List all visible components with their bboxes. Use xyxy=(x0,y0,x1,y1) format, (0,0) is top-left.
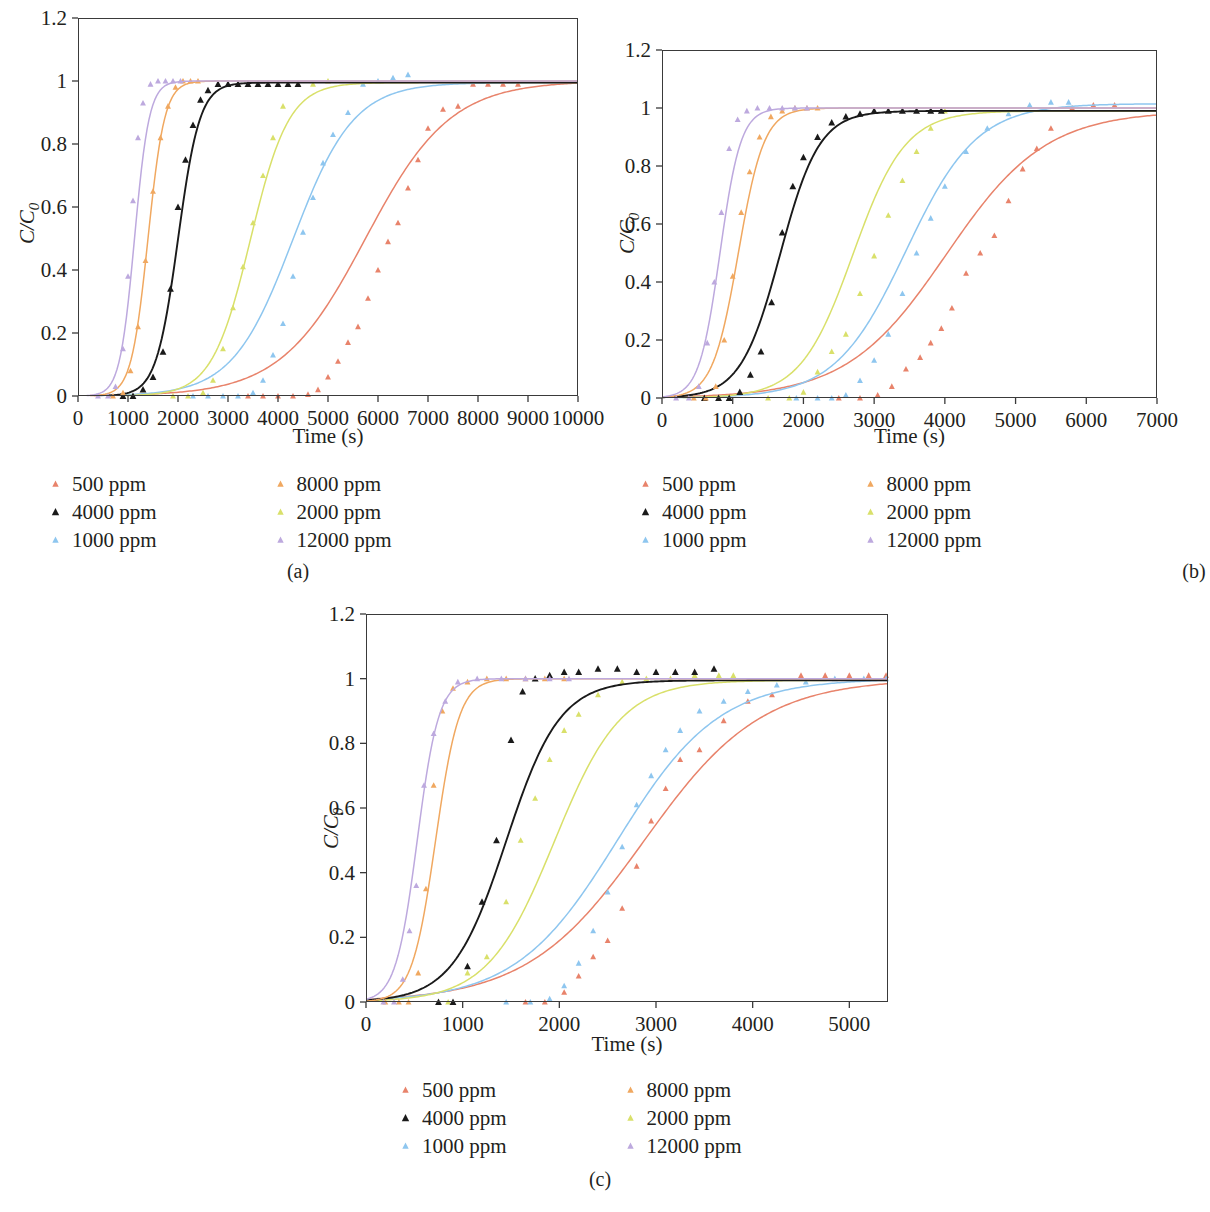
legend-item-4000ppm[interactable]: 4000 ppm xyxy=(640,500,747,524)
panel-c-ylabel-wrap: C/C0 xyxy=(319,779,347,849)
legend-marker-4000ppm-triangle-icon xyxy=(50,507,61,517)
panel-c-ylabel: C/C0 xyxy=(319,808,343,849)
legend-marker-500ppm-triangle-icon xyxy=(50,479,61,489)
legend-label-500ppm: 500 ppm xyxy=(72,472,146,496)
panel-b-plot-area xyxy=(662,50,1157,398)
panel-b-caption: (b) xyxy=(1164,560,1210,583)
panel-a-axes-frame xyxy=(78,18,578,396)
legend-marker-8000ppm-triangle-icon xyxy=(275,479,286,489)
legend-marker-8000ppm-triangle-icon xyxy=(865,479,876,489)
legend-marker-1000ppm-triangle-icon xyxy=(640,535,651,545)
legend-label-12000ppm: 12000 ppm xyxy=(297,528,392,552)
panel-a-ylabel-wrap: C/C0 xyxy=(15,174,43,244)
panel-a-legend: 500 ppm8000 ppm4000 ppm2000 ppm1000 ppm1… xyxy=(50,472,392,552)
legend-label-12000ppm: 12000 ppm xyxy=(647,1134,742,1158)
panel-c-xaxis-title: Time (s) xyxy=(366,1032,888,1057)
svg-text:0.2: 0.2 xyxy=(625,328,651,352)
legend-item-500ppm[interactable]: 500 ppm xyxy=(400,1078,507,1102)
svg-text:0: 0 xyxy=(641,386,652,410)
svg-text:1: 1 xyxy=(641,96,652,120)
legend-label-2000ppm: 2000 ppm xyxy=(647,1106,732,1130)
legend-marker-1000ppm-triangle-icon xyxy=(50,535,61,545)
legend-marker-2000ppm-triangle-icon xyxy=(625,1113,636,1123)
panel-c-axes-frame xyxy=(366,614,888,1002)
panel-a-xaxis-title: Time (s) xyxy=(78,424,578,449)
legend-label-2000ppm: 2000 ppm xyxy=(297,500,382,524)
svg-text:0: 0 xyxy=(57,384,68,408)
legend-label-12000ppm: 12000 ppm xyxy=(887,528,982,552)
legend-label-2000ppm: 2000 ppm xyxy=(887,500,972,524)
legend-item-1000ppm[interactable]: 1000 ppm xyxy=(640,528,747,552)
panel-b-axes-frame xyxy=(662,50,1157,398)
legend-item-2000ppm[interactable]: 2000 ppm xyxy=(625,1106,742,1130)
legend-item-12000ppm[interactable]: 12000 ppm xyxy=(865,528,982,552)
svg-text:0.4: 0.4 xyxy=(329,861,356,885)
svg-text:1: 1 xyxy=(345,667,356,691)
legend-item-1000ppm[interactable]: 1000 ppm xyxy=(50,528,157,552)
legend-item-4000ppm[interactable]: 4000 ppm xyxy=(50,500,157,524)
legend-label-4000ppm: 4000 ppm xyxy=(422,1106,507,1130)
svg-text:0.8: 0.8 xyxy=(329,731,355,755)
legend-item-2000ppm[interactable]: 2000 ppm xyxy=(865,500,982,524)
legend-marker-1000ppm-triangle-icon xyxy=(400,1141,411,1151)
svg-text:0.2: 0.2 xyxy=(41,321,67,345)
legend-marker-8000ppm-triangle-icon xyxy=(625,1085,636,1095)
panel-a-ylabel: C/C0 xyxy=(15,203,39,244)
legend-label-8000ppm: 8000 ppm xyxy=(647,1078,732,1102)
legend-marker-4000ppm-triangle-icon xyxy=(640,507,651,517)
legend-item-8000ppm[interactable]: 8000 ppm xyxy=(865,472,982,496)
svg-text:0.2: 0.2 xyxy=(329,925,355,949)
legend-marker-2000ppm-triangle-icon xyxy=(275,507,286,517)
svg-text:1.2: 1.2 xyxy=(41,6,67,30)
svg-text:0.6: 0.6 xyxy=(41,195,67,219)
legend-item-500ppm[interactable]: 500 ppm xyxy=(50,472,157,496)
panel-b-ylabel-wrap: C/C0 xyxy=(615,184,643,254)
legend-item-12000ppm[interactable]: 12000 ppm xyxy=(625,1134,742,1158)
legend-label-8000ppm: 8000 ppm xyxy=(297,472,382,496)
legend-item-1000ppm[interactable]: 1000 ppm xyxy=(400,1134,507,1158)
svg-text:0.4: 0.4 xyxy=(625,270,652,294)
svg-text:1: 1 xyxy=(57,69,68,93)
svg-text:0: 0 xyxy=(345,990,356,1014)
legend-item-500ppm[interactable]: 500 ppm xyxy=(640,472,747,496)
legend-label-1000ppm: 1000 ppm xyxy=(72,528,157,552)
panel-a: C/C0 00.20.40.60.811.2010002000300040005… xyxy=(0,0,600,600)
panel-a-caption: (a) xyxy=(268,560,328,583)
legend-marker-12000ppm-triangle-icon xyxy=(275,535,286,545)
svg-text:0.8: 0.8 xyxy=(625,154,651,178)
legend-label-1000ppm: 1000 ppm xyxy=(662,528,747,552)
legend-label-4000ppm: 4000 ppm xyxy=(72,500,157,524)
panel-b-legend: 500 ppm8000 ppm4000 ppm2000 ppm1000 ppm1… xyxy=(640,472,982,552)
legend-item-2000ppm[interactable]: 2000 ppm xyxy=(275,500,392,524)
svg-text:1.2: 1.2 xyxy=(625,38,651,62)
panel-c-legend: 500 ppm8000 ppm4000 ppm2000 ppm1000 ppm1… xyxy=(400,1078,742,1158)
legend-label-500ppm: 500 ppm xyxy=(422,1078,496,1102)
svg-text:0.4: 0.4 xyxy=(41,258,68,282)
panel-a-plot-area xyxy=(78,18,578,396)
legend-item-12000ppm[interactable]: 12000 ppm xyxy=(275,528,392,552)
legend-label-8000ppm: 8000 ppm xyxy=(887,472,972,496)
legend-item-8000ppm[interactable]: 8000 ppm xyxy=(275,472,392,496)
legend-marker-2000ppm-triangle-icon xyxy=(865,507,876,517)
svg-text:1.2: 1.2 xyxy=(329,602,355,626)
panel-b-ylabel: C/C0 xyxy=(615,213,639,254)
legend-item-4000ppm[interactable]: 4000 ppm xyxy=(400,1106,507,1130)
panel-c: C/C0 00.20.40.60.811.2010002000300040005… xyxy=(290,600,910,1212)
legend-label-500ppm: 500 ppm xyxy=(662,472,736,496)
legend-item-8000ppm[interactable]: 8000 ppm xyxy=(625,1078,742,1102)
legend-marker-500ppm-triangle-icon xyxy=(400,1085,411,1095)
panel-c-plot-area xyxy=(366,614,888,1002)
legend-marker-12000ppm-triangle-icon xyxy=(865,535,876,545)
legend-marker-500ppm-triangle-icon xyxy=(640,479,651,489)
panel-b: C/C0 00.20.40.60.811.2010002000300040005… xyxy=(600,0,1183,600)
svg-text:0.8: 0.8 xyxy=(41,132,67,156)
legend-marker-4000ppm-triangle-icon xyxy=(400,1113,411,1123)
panel-c-caption: (c) xyxy=(570,1168,630,1191)
legend-marker-12000ppm-triangle-icon xyxy=(625,1141,636,1151)
panel-b-xaxis-title: Time (s) xyxy=(662,424,1157,449)
legend-label-1000ppm: 1000 ppm xyxy=(422,1134,507,1158)
legend-label-4000ppm: 4000 ppm xyxy=(662,500,747,524)
